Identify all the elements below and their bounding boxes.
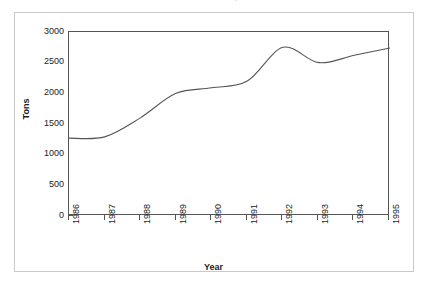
x-tick-label-1994: 1994 xyxy=(356,204,365,224)
chart-title-text: Annual Production, 1986-95 xyxy=(0,0,427,1)
x-tick-mark-1991 xyxy=(246,215,247,220)
x-tick-label-1995: 1995 xyxy=(392,204,401,224)
x-axis-title: Year xyxy=(0,262,427,272)
y-tick-label-1000: 1000 xyxy=(20,149,64,158)
x-tick-mark-1990 xyxy=(210,215,211,220)
y-axis-title: Tons xyxy=(21,79,31,139)
x-tick-label-1989: 1989 xyxy=(179,204,188,224)
x-tick-label-1992: 1992 xyxy=(285,204,294,224)
chart-title-cropped: Annual Production, 1986-95 xyxy=(0,0,427,9)
y-tick-label-2500: 2500 xyxy=(20,57,64,66)
y-tick-label-0: 0 xyxy=(20,211,64,220)
x-tick-mark-1987 xyxy=(104,215,105,220)
x-tick-label-1987: 1987 xyxy=(108,204,117,224)
y-tick-label-3000: 3000 xyxy=(20,27,64,36)
x-tick-mark-1993 xyxy=(317,215,318,220)
data-series-line xyxy=(69,47,390,139)
x-tick-mark-1989 xyxy=(175,215,176,220)
x-tick-mark-1986 xyxy=(68,215,69,220)
x-tick-label-1991: 1991 xyxy=(250,204,259,224)
x-tick-label-1990: 1990 xyxy=(214,204,223,224)
x-tick-label-1988: 1988 xyxy=(143,204,152,224)
x-tick-label-1986: 1986 xyxy=(72,204,81,224)
data-line-chart xyxy=(69,32,390,216)
plot-area xyxy=(68,31,389,215)
y-axis-labels: 3000 2500 2000 1500 1000 500 0 xyxy=(18,0,64,283)
y-tick-label-500: 500 xyxy=(20,180,64,189)
x-tick-mark-1995 xyxy=(388,215,389,220)
x-tick-mark-1992 xyxy=(281,215,282,220)
x-tick-mark-1988 xyxy=(139,215,140,220)
x-tick-label-1993: 1993 xyxy=(321,204,330,224)
x-tick-mark-1994 xyxy=(352,215,353,220)
